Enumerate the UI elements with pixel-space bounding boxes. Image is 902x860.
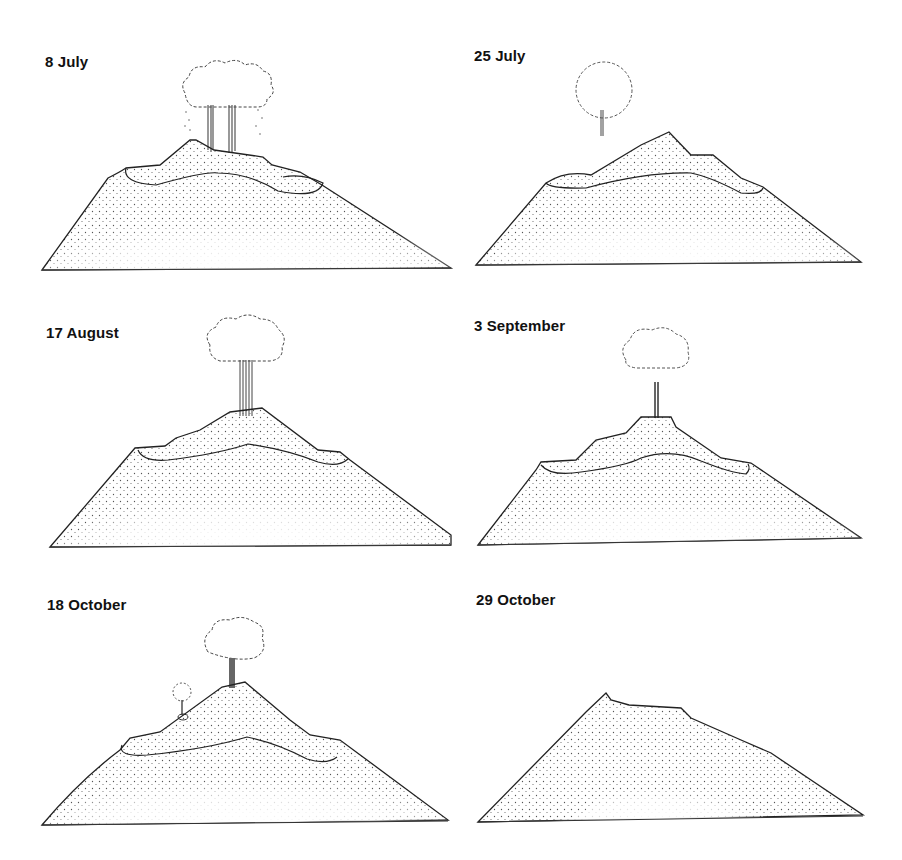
panel-8-july: 8 July <box>0 0 451 287</box>
ash-plume-icon <box>576 62 632 136</box>
panel-18-october: 18 October <box>0 570 451 857</box>
panel-17-august: 17 August <box>0 290 451 577</box>
panel-3-september: 3 September <box>451 290 902 577</box>
panel-label: 3 September <box>474 317 565 334</box>
ash-plume-icon <box>623 328 689 418</box>
ash-plume-icon <box>205 617 264 688</box>
panel-label: 18 October <box>47 596 126 613</box>
volcano-illustration <box>451 0 902 287</box>
panel-25-july: 25 July <box>451 0 902 287</box>
volcano-illustration <box>0 0 451 287</box>
ash-plume-icon <box>183 60 274 153</box>
panel-label: 17 August <box>46 324 119 341</box>
panel-label: 25 July <box>474 47 526 64</box>
volcano-illustration <box>0 570 451 857</box>
panel-29-october: 29 October <box>451 570 902 857</box>
panel-label: 8 July <box>45 53 88 70</box>
volcano-illustration <box>451 570 902 857</box>
ash-plume-icon <box>207 315 284 416</box>
panel-label: 29 October <box>476 591 555 608</box>
